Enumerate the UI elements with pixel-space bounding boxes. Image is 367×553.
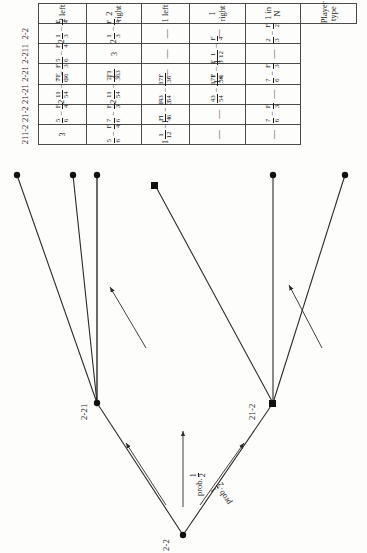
payoff-cell: 56−F4: [39, 44, 87, 64]
minus-sign: −: [212, 42, 221, 50]
arrow-21-2-sub: [289, 285, 322, 348]
empty-cell-dash: —: [268, 49, 278, 58]
empty-cell-dash: —: [268, 130, 278, 139]
value-fraction: 4354: [158, 94, 174, 103]
terminal-node-21-21: [151, 182, 158, 189]
payoff-expression: 3: [111, 52, 119, 56]
value-fraction: 76: [265, 118, 281, 124]
fee-fraction: F4: [55, 43, 71, 49]
minus-sign: −: [268, 110, 277, 118]
minus-sign: −: [161, 86, 170, 94]
value-fraction: 56: [106, 138, 122, 144]
column-header-21-21: 21-21: [12, 84, 39, 104]
value-fraction: 76: [55, 78, 71, 84]
payoff-expression: 76−F3: [265, 63, 281, 84]
node-2-21: [94, 400, 100, 406]
payoff-expression: 23−F2: [265, 22, 281, 43]
prob-word-upper: prob.: [194, 478, 204, 496]
fee-fraction: F2: [265, 23, 281, 29]
whole-part: 3: [111, 52, 119, 56]
corner-row-spacer: [301, 24, 357, 145]
value-fraction: 56: [55, 118, 71, 124]
whole-part: 2: [58, 39, 66, 43]
fee-fraction: F4: [106, 124, 122, 130]
figure-container: 2-2 2-21 21-2 prob.12 prob.12 211-221-22…: [0, 0, 367, 553]
row-header-2-left: 2 left: [39, 4, 87, 24]
payoff-cell: 3: [39, 124, 87, 144]
whole-part: 1: [162, 120, 170, 124]
payoff-cell: 4354−17F36: [190, 84, 246, 104]
empty-cell-dash: —: [268, 90, 278, 99]
minus-sign: −: [109, 130, 118, 138]
minus-sign: −: [109, 25, 118, 33]
fee-fraction: F4: [55, 103, 71, 109]
whole-part: 2: [110, 39, 118, 43]
corner-line-2: type: [329, 4, 338, 23]
minus-sign: −: [212, 66, 221, 74]
empty-cell-dash: —: [161, 70, 171, 79]
column-header-21-2: 21-2: [12, 104, 39, 124]
column-header-2-21: 2-21: [12, 64, 39, 84]
value-fraction: 13: [106, 33, 122, 39]
value-fraction: 112: [158, 131, 174, 140]
whole-part: 2: [58, 100, 66, 104]
branch-21-2-to-211-2: [273, 175, 345, 403]
terminal-node-2-21: [94, 172, 100, 178]
payoff-cell: 1112−F4: [142, 124, 190, 144]
fee-fraction: F3: [106, 103, 122, 109]
minus-sign: −: [161, 106, 170, 114]
empty-cell-dash: —: [213, 29, 223, 38]
table-row: ——4354−17F36116−F31112−F4—1 right: [190, 4, 246, 145]
fee-fraction: F3: [55, 63, 71, 69]
whole-part: 3: [110, 75, 118, 79]
whole-part: 1: [214, 80, 222, 84]
payoff-cell: —: [142, 44, 190, 64]
value-fraction: 23: [265, 37, 281, 43]
payoff-cell: —: [142, 24, 190, 44]
minus-sign: −: [57, 25, 66, 33]
value-fraction: 1154: [55, 90, 71, 99]
payoff-expression: 76−F3: [55, 63, 71, 84]
fee-fraction: F3: [265, 103, 281, 109]
minus-sign: −: [268, 70, 277, 78]
label-node-21-2: 21-2: [247, 404, 257, 420]
minus-sign: −: [57, 70, 66, 78]
payoff-cell: 76−F3: [86, 104, 142, 124]
payoff-cell: —: [245, 44, 301, 64]
payoff-table: 211-221-221-212-212-2112-2356−F421154−7F…: [12, 3, 357, 145]
game-tree-diagram: 2-2 2-21 21-2 prob.12 prob.12: [0, 143, 367, 553]
value-fraction: 112: [210, 50, 226, 59]
minus-sign: −: [109, 82, 118, 90]
terminal-node-2-211: [70, 172, 76, 178]
value-fraction: 13: [106, 69, 122, 75]
payoff-cell: 23−F2: [245, 24, 301, 44]
table-corner-row: Playertype: [301, 4, 357, 145]
empty-cell-dash: —: [161, 29, 171, 38]
column-header-2-2: 2-2: [12, 24, 39, 44]
minus-sign: −: [57, 110, 66, 118]
payoff-expression: 56−F4: [55, 103, 71, 124]
value-fraction: 16: [158, 114, 174, 120]
payoff-expression: 76−F3: [106, 103, 122, 124]
value-fraction: 56: [55, 57, 71, 63]
prob-fraction-upper: 12: [190, 473, 207, 477]
payoff-expression: 56−F4: [55, 43, 71, 64]
payoff-cell: 4354−17F36: [142, 84, 190, 104]
payoff-cell: 21154−7F36: [39, 84, 87, 104]
value-fraction: 76: [265, 78, 281, 84]
value-fraction: 13: [55, 33, 71, 39]
arrow-upper-branch: [126, 443, 166, 505]
whole-part: 1: [214, 59, 222, 63]
column-header-spacer: [12, 4, 39, 24]
payoff-expression: 76−F3: [265, 103, 281, 124]
whole-part: 3: [59, 132, 67, 136]
prob-label-upper: prob.12: [190, 473, 207, 496]
payoff-cell: 213−F4: [39, 24, 87, 44]
column-header-2-211: 2-211: [12, 44, 39, 64]
value-fraction: 4354: [210, 94, 226, 103]
payoff-cell: 3: [86, 44, 142, 64]
payoff-expression: 1112−F4: [210, 35, 226, 63]
payoff-table-wrapper: 211-221-221-212-212-2112-2356−F421154−7F…: [12, 3, 357, 145]
node-root-2-2: [180, 532, 186, 538]
row-header-2-right: 2 right: [86, 4, 142, 24]
